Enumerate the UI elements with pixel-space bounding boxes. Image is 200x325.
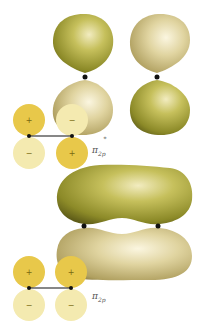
- bonding-ao-diagram: + − + −: [13, 256, 87, 321]
- ao-nucleus-right: [69, 286, 73, 290]
- nucleus-left: [82, 224, 87, 229]
- mo-lobe-bottom-right: [130, 80, 190, 135]
- nucleus-right: [155, 75, 160, 80]
- mo-lobe-top-right: [130, 14, 190, 73]
- antibonding-ao-diagram: + − − +: [13, 104, 88, 169]
- bonding-label: π2p: [92, 291, 106, 303]
- mo-lobe-top-left: [53, 14, 113, 73]
- orbital-diagram: + − − + + − + −: [0, 0, 200, 325]
- label-sub: 2p: [98, 150, 106, 157]
- sign-bottom-right: +: [69, 149, 76, 158]
- sign-bottom-right: −: [68, 301, 75, 310]
- mo-lobe-top: [57, 165, 192, 225]
- ao-nucleus-left: [27, 134, 31, 138]
- nucleus-right: [156, 224, 161, 229]
- label-sup: *: [104, 135, 107, 142]
- antibonding-label: π2p*: [92, 143, 109, 157]
- sign-top-left: +: [26, 268, 33, 277]
- sign-top-right: −: [69, 116, 76, 125]
- ao-nucleus-left: [27, 286, 31, 290]
- sign-top-right: +: [68, 268, 75, 277]
- nucleus-left: [83, 75, 88, 80]
- sign-bottom-left: −: [26, 301, 33, 310]
- sign-top-left: +: [26, 116, 33, 125]
- sign-bottom-left: −: [26, 149, 33, 158]
- label-sub: 2p: [98, 296, 106, 303]
- ao-nucleus-right: [70, 134, 74, 138]
